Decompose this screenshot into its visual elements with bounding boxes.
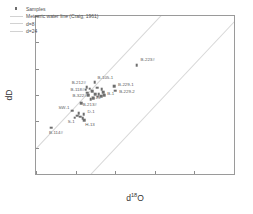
legend-item[interactable]: Samples [8, 5, 99, 13]
legend-key-line [8, 31, 24, 32]
data-point[interactable] [114, 89, 117, 92]
chart-legend: SamplesMeteoric water line (Craig, 1961)… [8, 5, 99, 35]
data-point-label: S-1 [68, 120, 75, 124]
data-point-label: B-229-2 [119, 90, 135, 94]
data-point[interactable] [80, 102, 83, 105]
x-tick [234, 174, 235, 175]
x-tick-minor [135, 174, 136, 175]
y-tick-minor [35, 108, 36, 109]
isotope-scatter-figure: -85-80-75-70-65-60-55-13-12-11-10-9-8B-2… [0, 0, 253, 214]
x-tick-inner [234, 171, 235, 174]
x-tick-minor [214, 174, 215, 175]
data-point[interactable] [113, 85, 116, 88]
x-tick [36, 174, 37, 175]
y-tick-inner [36, 42, 39, 43]
legend-label: Meteoric water line (Craig, 1961) [26, 13, 99, 19]
reference-line-d8 [36, 21, 235, 175]
data-point[interactable] [81, 117, 84, 120]
x-tick-inner [76, 171, 77, 174]
y-tick-minor [35, 82, 36, 83]
legend-key-marker [8, 7, 24, 10]
data-point-label: B-229-1 [118, 83, 134, 87]
data-point[interactable] [87, 94, 90, 97]
data-point[interactable] [103, 94, 106, 97]
y-tick-minor [35, 135, 36, 136]
x-tick-minor [95, 174, 96, 175]
legend-line-icon [10, 16, 23, 17]
legend-key-line [8, 16, 24, 17]
legend-key-line [8, 23, 24, 24]
x-tick-inner [36, 171, 37, 174]
data-point-label: B-118# [71, 88, 85, 92]
legend-marker-icon [15, 7, 18, 10]
legend-item[interactable]: d=8 [8, 20, 99, 28]
data-point-label: H-13 [85, 123, 95, 127]
data-point[interactable] [50, 126, 53, 129]
data-point[interactable] [96, 86, 99, 89]
legend-line-icon [10, 31, 23, 32]
reference-line-d24 [36, 15, 235, 148]
x-tick-minor [56, 174, 57, 175]
y-axis-title: dD [4, 90, 14, 101]
x-tick [194, 174, 195, 175]
data-point[interactable] [135, 64, 138, 67]
x-axis-title: d18O [35, 192, 235, 203]
x-tick [115, 174, 116, 175]
legend-label: d=24 [26, 28, 37, 34]
data-point[interactable] [92, 97, 95, 100]
data-point[interactable] [100, 88, 103, 91]
x-tick [76, 174, 77, 175]
data-point-label: B-223# [141, 58, 155, 62]
y-tick-inner [36, 121, 39, 122]
x-tick-inner [155, 171, 156, 174]
x-tick-minor [175, 174, 176, 175]
y-tick-inner [36, 95, 39, 96]
data-point[interactable] [71, 110, 74, 113]
legend-line-icon [10, 23, 23, 24]
data-point-label: B-212# [72, 81, 86, 85]
y-tick-inner [36, 69, 39, 70]
data-point[interactable] [93, 81, 96, 84]
x-tick [155, 174, 156, 175]
data-point[interactable] [82, 113, 85, 116]
x-tick-inner [194, 171, 195, 174]
y-tick-minor [35, 161, 36, 162]
y-tick [35, 174, 36, 175]
y-tick-inner [36, 148, 39, 149]
legend-item[interactable]: Meteoric water line (Craig, 1961) [8, 13, 99, 21]
data-point-label: SW-1 [58, 106, 69, 110]
data-point-label: B-213# [83, 103, 97, 107]
legend-label: Samples [26, 6, 45, 12]
data-point-label: D-1 [88, 110, 95, 114]
plot-area: -85-80-75-70-65-60-55-13-12-11-10-9-8B-2… [35, 15, 235, 175]
data-point-label: B-105-1 [98, 76, 114, 80]
data-point-label: B-322# [72, 94, 86, 98]
y-tick-minor [35, 56, 36, 57]
x-axis-title-suffix: O [137, 193, 144, 203]
data-point-label: B-114# [49, 131, 63, 135]
data-point-label: B-1 [107, 92, 114, 96]
x-tick-inner [115, 171, 116, 174]
y-tick-inner [36, 174, 39, 175]
legend-label: d=8 [26, 21, 34, 27]
legend-item[interactable]: d=24 [8, 28, 99, 36]
